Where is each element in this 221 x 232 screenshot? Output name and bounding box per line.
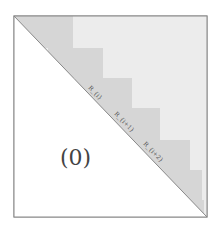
matrix-diagram: R_{i} R_{i+1} R_{i+2} (0) bbox=[0, 0, 221, 232]
zero-label: (0) bbox=[60, 145, 91, 170]
